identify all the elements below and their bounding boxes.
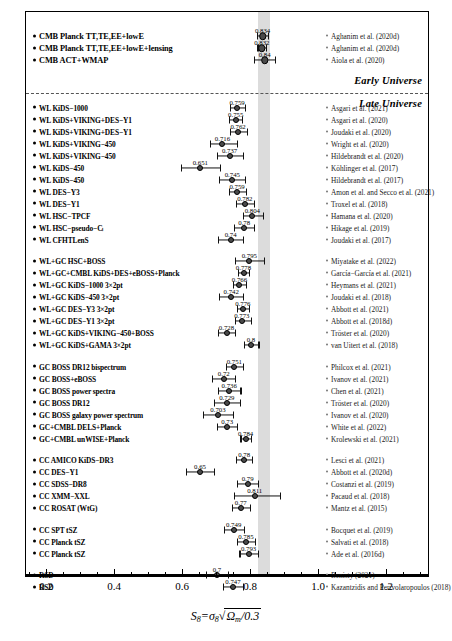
error-cap-high [263, 212, 264, 219]
axis-tick-major [46, 569, 47, 575]
series-label-text: GC BOSS galaxy power spectrum [39, 410, 143, 419]
series-label-text: WL KiDS−450 [39, 163, 84, 172]
bullet-icon [326, 552, 328, 554]
data-point-value: 0.747 [225, 578, 240, 585]
axis-tick-label: 1.0 [311, 580, 325, 592]
data-point-value: 0.74 [225, 231, 237, 238]
bullet-icon [33, 214, 36, 217]
bullet-icon [326, 118, 328, 120]
reference-text: Asgari et al. (2021) [331, 103, 388, 112]
data-point-value: 0.745 [225, 171, 240, 178]
error-cap-high [251, 318, 252, 325]
reference-citation: Amon et al. and Secco et al. (2021) [326, 187, 434, 196]
error-cap-low [219, 294, 220, 301]
series-label: CC AMICO KiDS−DR3 [33, 456, 113, 465]
series-label: WL KiDS+VIKING+DES−Y1 [33, 127, 132, 136]
bullet-icon [326, 332, 328, 334]
reference-citation: Abbott et al. (2020d) [326, 468, 392, 477]
error-cap-high [254, 224, 255, 231]
bullet-icon [33, 307, 36, 310]
bullet-icon [326, 154, 328, 156]
bullet-icon [326, 106, 328, 108]
data-point-value: 0.78 [238, 219, 250, 226]
bullet-icon [326, 507, 328, 509]
series-label-text: WL+GC DES−Y1 3×2pt [39, 317, 114, 326]
series-label-text: WL KiDS−450 [39, 175, 84, 184]
series-label: WL+GC KiDS+VIKING−450+BOSS [33, 329, 154, 338]
error-cap-high [220, 164, 221, 171]
reference-text: Troxel et al. (2018) [331, 199, 387, 208]
series-label-text: WL CFHTLenS [39, 235, 89, 244]
data-point-value: 0.736 [222, 382, 237, 389]
axis-tick-label: 1.2 [379, 580, 393, 592]
error-cap-low [217, 152, 218, 159]
reference-text: Philcox et al. (2021) [331, 362, 391, 371]
series-label-text: WL+GC KiDS+VIKING−450+BOSS [39, 329, 154, 338]
series-label: WL CFHTLenS [33, 235, 89, 244]
reference-text: Aiola et al. (2020) [331, 56, 385, 65]
error-cap-high [252, 457, 253, 464]
reference-citation: Pacaud et al. (2018) [326, 492, 389, 501]
series-label: GC+CMBL DELS+Planck [33, 422, 121, 431]
data-point-value: 0.742 [224, 288, 239, 295]
series-label-text: CC SDSS−DR8 [39, 480, 87, 489]
bullet-icon [326, 59, 328, 61]
bullet-icon [326, 344, 328, 346]
data-point-value: 0.77 [235, 499, 247, 506]
axis-tick-minor [131, 572, 132, 576]
series-label-text: GC BOSS DR12 [39, 398, 90, 407]
series-label: WL DES−Y3 [33, 187, 79, 196]
reference-text: Amon et al. and Secco et al. (2021) [331, 187, 434, 196]
bullet-icon [326, 471, 328, 473]
error-cap-high [250, 505, 251, 512]
bullet-icon [33, 425, 36, 428]
axis-tick-minor [80, 572, 81, 576]
reference-text: Ivanov et al. (2020) [331, 410, 389, 419]
bullet-icon [326, 401, 328, 403]
error-cap-low [224, 526, 225, 533]
axis-tick-major [114, 569, 115, 575]
reference-text: Wright et al. (2020) [331, 139, 389, 148]
bullet-icon [326, 528, 328, 530]
error-cap-high [245, 104, 246, 111]
data-point-value: 0.766 [232, 276, 247, 283]
error-cap-high [275, 57, 276, 64]
bullet-icon [326, 483, 328, 485]
bullet-icon [33, 154, 36, 157]
data-point-value: 0.8 [247, 336, 256, 343]
reference-citation: Mantz et al. (2015) [326, 504, 387, 513]
series-label-text: CC XMM−XXL [39, 492, 90, 501]
series-label: GC BOSS DR12 [33, 398, 90, 407]
bullet-icon [326, 142, 328, 144]
series-label: WL+GC DES−Y3 3×2pt [33, 305, 114, 314]
data-point-value: 0.811 [247, 487, 262, 494]
reference-citation: White et al. (2022) [326, 422, 386, 431]
reference-text: Hikage et al. (2019) [331, 223, 389, 232]
data-point-value: 0.784 [238, 430, 253, 437]
series-label-text: GC+CMBL unWISE+Planck [39, 434, 129, 443]
error-cap-high [247, 128, 248, 135]
bullet-icon [326, 178, 328, 180]
data-point-value: 0.755 [228, 111, 243, 118]
reference-text: Hamana et al. (2020) [331, 211, 393, 220]
bullet-icon [326, 308, 328, 310]
error-cap-low [232, 505, 233, 512]
era-label-early: Early Universe [354, 75, 422, 86]
reference-text: Köhlinger et al. (2017) [331, 163, 398, 172]
reference-citation: Bocquet et al. (2019) [326, 525, 393, 534]
bullet-icon [33, 343, 36, 346]
error-cap-high [258, 342, 259, 349]
reference-citation: Miyatake et al. (2022) [326, 257, 396, 266]
reference-text: Aghanim et al. (2020d) [331, 44, 399, 53]
axis-tick-minor [29, 572, 30, 576]
series-label-text: CC AMICO KiDS−DR3 [39, 456, 113, 465]
series-label-text: CMB Planck TT,TE,EE+lowE+lensing [39, 44, 173, 53]
bullet-icon [33, 377, 36, 380]
bullet-icon [33, 365, 36, 368]
bullet-icon [33, 58, 36, 61]
data-point-value: 0.776 [235, 300, 250, 307]
axis-line [25, 575, 429, 577]
series-label: WL KiDS+VIKING−450 [33, 151, 116, 160]
reference-text: Joudaki et al. (2017) [331, 235, 391, 244]
data-point-value: 0.737 [222, 147, 237, 154]
